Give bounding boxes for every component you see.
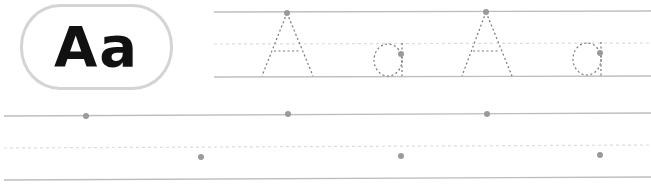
start-dot bbox=[398, 51, 404, 57]
start-dot bbox=[83, 113, 89, 119]
trace-letter-a-2[interactable] bbox=[573, 42, 601, 76]
start-dot bbox=[597, 50, 603, 56]
base-line bbox=[214, 76, 651, 77]
top-line bbox=[4, 113, 651, 116]
start-dot bbox=[285, 111, 291, 117]
trace-letter-A-2[interactable] bbox=[462, 12, 512, 76]
mid-dashed-line bbox=[4, 145, 651, 148]
start-dot bbox=[484, 111, 490, 117]
start-dot bbox=[597, 152, 603, 158]
trace-row-guides bbox=[214, 11, 651, 77]
start-dot bbox=[198, 154, 204, 160]
base-line bbox=[4, 177, 651, 180]
start-dot bbox=[483, 9, 489, 15]
top-line bbox=[214, 11, 651, 12]
start-dot bbox=[398, 153, 404, 159]
trace-letter-A-1[interactable] bbox=[262, 13, 313, 76]
trace-letter-a-1[interactable] bbox=[374, 43, 402, 76]
start-dot bbox=[284, 10, 290, 16]
practice-start-dots bbox=[83, 111, 603, 160]
practice-row-guides bbox=[4, 113, 651, 180]
handwriting-guides bbox=[0, 0, 651, 184]
